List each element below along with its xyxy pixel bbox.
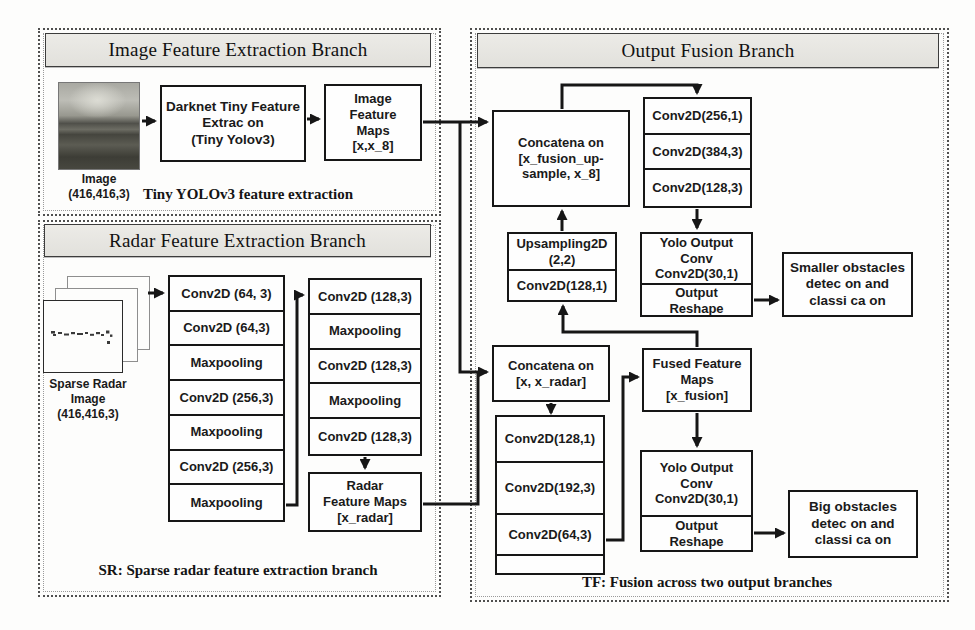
darknet-line2: Extrac on xyxy=(202,115,264,131)
yolo-big-line4: Output xyxy=(675,518,718,534)
radar-col1-layer-1: Conv2D (64, 3) xyxy=(170,277,283,312)
yolo-big-line5: Reshape xyxy=(669,534,723,550)
darknet-line3: (Tiny Yolov3) xyxy=(191,132,274,148)
big-obstacles-line3: classi ca on xyxy=(815,532,892,548)
radar-maps-line3: [x_radar] xyxy=(337,510,393,526)
yolo-small-reshape-cell: Output Reshape xyxy=(642,285,751,316)
image-maps-line2: Feature xyxy=(350,107,397,123)
radar-col2-layer-1: Conv2D (128,3) xyxy=(310,280,420,315)
yolo-small-line5: Reshape xyxy=(669,301,723,317)
radar-col1-layer-7: Maxpooling xyxy=(170,485,283,520)
image-input-name: Image xyxy=(48,172,150,187)
radar-input-line2: Image xyxy=(33,392,143,407)
yolo-small-line4: Output xyxy=(675,285,718,301)
radar-branch-title: Radar Feature Extraction Branch xyxy=(109,230,366,252)
yolo-big-line1: Yolo Output xyxy=(660,460,733,476)
radar-col2-layer-2: Maxpooling xyxy=(310,315,420,350)
radar-col1-layer-6: Conv2D (256,3) xyxy=(170,451,283,486)
fused-maps-line1: Fused Feature xyxy=(653,356,742,372)
image-maps-line1: Image xyxy=(354,91,392,107)
image-maps-line3: Maps xyxy=(356,123,389,139)
bottom-stack-layer-3: Conv2D(64,3) xyxy=(497,515,603,556)
radar-col2-layer-5: Conv2D (128,3) xyxy=(310,419,420,454)
darknet-extraction-box: Darknet Tiny Feature Extrac on (Tiny Yol… xyxy=(160,85,306,162)
top-stack-layer-1: Conv2D(256,1) xyxy=(645,99,750,135)
concat-upsample-box: Concatena on [x_fusion_up- sample, x_8] xyxy=(492,110,630,207)
yolo-small-line2: Conv xyxy=(680,251,713,267)
bottom-stack-layer-1: Conv2D(128,1) xyxy=(497,417,603,463)
yolo-output-big-box: Yolo Output Conv Conv2D(30,1) Output Res… xyxy=(640,450,753,552)
fusion-bottom-conv-stack: Conv2D(128,1) Conv2D(192,3) Conv2D(64,3) xyxy=(495,415,605,575)
fusion-branch-title: Output Fusion Branch xyxy=(622,40,795,62)
concat-radar-line2: [x, x_radar] xyxy=(516,374,586,390)
big-obstacles-box: Big obstacles detec on and classi ca on xyxy=(788,490,918,558)
small-obstacles-line1: Smaller obstacles xyxy=(790,260,905,276)
concat-radar-box: Concatena on [x, x_radar] xyxy=(492,345,610,402)
sparse-radar-thumbnail xyxy=(43,300,123,373)
concat-up-line1: Concatena on xyxy=(518,135,604,151)
bottom-stack-layer-2: Conv2D(192,3) xyxy=(497,463,603,515)
radar-points xyxy=(44,301,120,369)
upsampling-line2: (2,2) xyxy=(549,252,576,268)
yolo-small-line1: Yolo Output xyxy=(660,235,733,251)
yolo-small-line3: Conv2D(30,1) xyxy=(655,266,738,282)
bottom-stack-spacer xyxy=(497,556,603,573)
small-obstacles-box: Smaller obstacles detec on and classi ca… xyxy=(782,252,913,317)
image-branch-title: Image Feature Extraction Branch xyxy=(109,39,368,61)
radar-conv-column-1: Conv2D (64, 3) Conv2D (64,3) Maxpooling … xyxy=(168,275,285,522)
radar-feature-maps-box: Radar Feature Maps [x_radar] xyxy=(308,472,422,532)
yolo-big-line2: Conv xyxy=(680,476,713,492)
big-obstacles-line1: Big obstacles xyxy=(809,499,897,515)
image-branch-header: Image Feature Extraction Branch xyxy=(45,33,431,67)
yolo-small-conv-cell: Yolo Output Conv Conv2D(30,1) xyxy=(642,234,751,285)
radar-input-label: Sparse Radar Image (416,416,3) xyxy=(33,377,143,422)
radar-maps-line1: Radar xyxy=(347,478,384,494)
small-obstacles-line2: detec on and xyxy=(806,276,889,292)
fused-feature-maps-box: Fused Feature Maps [x_fusion] xyxy=(642,348,752,412)
fusion-top-conv-stack: Conv2D(256,1) Conv2D(384,3) Conv2D(128,3… xyxy=(643,97,752,208)
radar-input-shape: (416,416,3) xyxy=(33,407,143,422)
upsampling-cell: Upsampling2D (2,2) xyxy=(509,234,615,271)
radar-col2-layer-3: Conv2D (128,3) xyxy=(310,350,420,385)
fused-maps-line2: Maps xyxy=(680,372,713,388)
yolo-output-small-box: Yolo Output Conv Conv2D(30,1) Output Res… xyxy=(640,232,753,317)
concat-radar-line1: Concatena on xyxy=(508,358,594,374)
top-stack-layer-3: Conv2D(128,3) xyxy=(645,170,750,206)
concat-up-line2: [x_fusion_up- xyxy=(518,151,603,167)
radar-maps-line2: Feature Maps xyxy=(323,494,407,510)
image-feature-maps-box: Image Feature Maps [x,x_8] xyxy=(324,84,422,161)
big-obstacles-line2: detec on and xyxy=(811,516,894,532)
scene-photo-thumbnail xyxy=(58,82,140,170)
radar-col2-layer-4: Maxpooling xyxy=(310,384,420,419)
upsampling-conv-cell: Conv2D(128,1) xyxy=(509,271,615,300)
top-stack-layer-2: Conv2D(384,3) xyxy=(645,135,750,171)
upsampling-box: Upsampling2D (2,2) Conv2D(128,1) xyxy=(507,232,617,302)
radar-col1-layer-5: Maxpooling xyxy=(170,416,283,451)
concat-up-line3: sample, x_8] xyxy=(522,166,600,182)
image-branch-caption: Tiny YOLOv3 feature extraction xyxy=(98,186,398,203)
image-maps-line4: [x,x_8] xyxy=(352,138,393,154)
fusion-branch-header: Output Fusion Branch xyxy=(477,33,939,68)
radar-branch-header: Radar Feature Extraction Branch xyxy=(44,224,431,257)
architecture-diagram: Image Feature Extraction Branch Image (4… xyxy=(0,0,975,630)
yolo-big-reshape-cell: Output Reshape xyxy=(642,517,751,550)
fusion-branch-caption: TF: Fusion across two output branches xyxy=(557,574,857,591)
radar-branch-caption: SR: Sparse radar feature extraction bran… xyxy=(88,562,388,579)
radar-input-line1: Sparse Radar xyxy=(33,377,143,392)
radar-col1-layer-2: Conv2D (64,3) xyxy=(170,312,283,347)
radar-conv-column-2: Conv2D (128,3) Maxpooling Conv2D (128,3)… xyxy=(308,278,422,456)
yolo-big-conv-cell: Yolo Output Conv Conv2D(30,1) xyxy=(642,452,751,517)
small-obstacles-line3: classi ca on xyxy=(809,293,886,309)
yolo-big-line3: Conv2D(30,1) xyxy=(655,491,738,507)
radar-col1-layer-4: Conv2D (256,3) xyxy=(170,381,283,416)
darknet-line1: Darknet Tiny Feature xyxy=(166,99,300,115)
radar-col1-layer-3: Maxpooling xyxy=(170,346,283,381)
upsampling-line1: Upsampling2D xyxy=(516,236,607,252)
fused-maps-line3: [x_fusion] xyxy=(666,388,728,404)
